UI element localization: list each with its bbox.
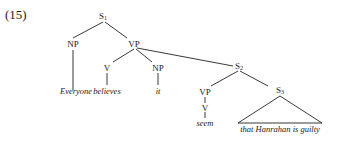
node-v-embedded: V: [202, 104, 209, 113]
node-s1: S1: [99, 12, 107, 21]
leaf-believes: believes: [93, 87, 120, 96]
node-np-object: NP: [152, 64, 164, 73]
node-vp-main: VP: [128, 40, 140, 49]
node-vp-embedded: VP: [199, 88, 211, 97]
leaf-seem: seem: [197, 119, 214, 128]
node-np-subject: NP: [67, 40, 79, 49]
node-s3: S3: [276, 86, 284, 95]
leaf-that-clause: that Hanrahan is guilty: [240, 125, 320, 134]
node-v-main: V: [104, 64, 111, 73]
node-s2: S2: [235, 62, 243, 71]
leaf-it: it: [156, 87, 161, 96]
leaf-everyone: Everyone: [60, 87, 92, 96]
tree-branches: [0, 0, 337, 142]
